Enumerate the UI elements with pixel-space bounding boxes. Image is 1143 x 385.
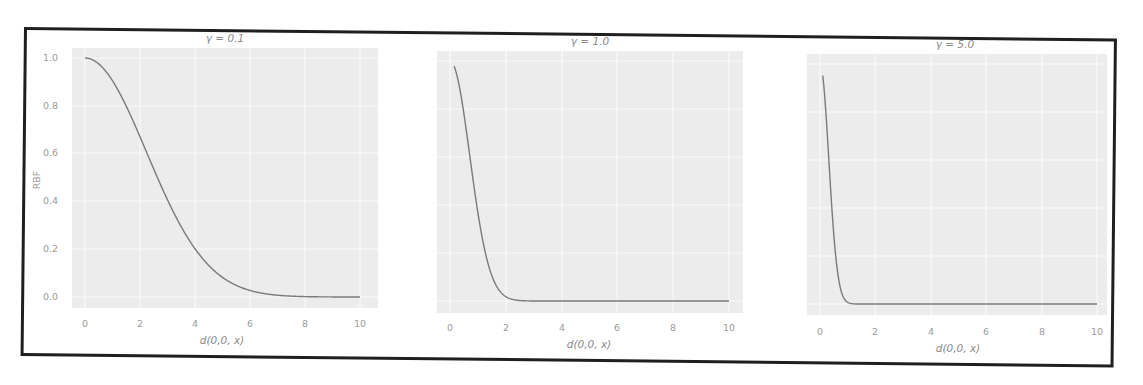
x-tick-labels: 0 2 4 6 8 10 xyxy=(82,318,366,329)
panel-gamma-0-1: γ = 0.1 1.0 0.8 0.6 0.4 0.2 0.0 RBF 0 2 … xyxy=(31,32,378,346)
x-tick: 2 xyxy=(872,326,878,337)
x-tick: 8 xyxy=(670,322,676,333)
panel-title: γ = 1.0 xyxy=(571,35,610,47)
x-tick-labels: 0 2 4 6 8 10 xyxy=(817,326,1103,337)
x-axis-label: d(0,0, x) xyxy=(200,334,244,346)
y-tick: 0.6 xyxy=(43,147,58,158)
x-tick: 4 xyxy=(559,322,565,333)
x-tick: 0 xyxy=(447,322,453,333)
x-tick-labels: 0 2 4 6 8 10 xyxy=(447,322,735,333)
y-tick: 1.0 xyxy=(43,52,58,63)
y-tick: 0.0 xyxy=(43,291,58,302)
y-tick-labels: 1.0 0.8 0.6 0.4 0.2 0.0 xyxy=(43,52,58,302)
panel-title: γ = 5.0 xyxy=(936,38,975,50)
x-tick: 8 xyxy=(1039,326,1045,337)
x-tick: 6 xyxy=(247,318,253,329)
x-tick: 2 xyxy=(503,322,509,333)
x-tick: 0 xyxy=(817,326,823,337)
x-axis-label: d(0,0, x) xyxy=(567,338,611,350)
x-axis-label: d(0,0, x) xyxy=(936,342,980,354)
x-tick: 6 xyxy=(614,322,620,333)
panel-gamma-1-0: γ = 1.0 0 2 4 6 8 10 d(0,0, x) xyxy=(437,35,743,350)
x-tick: 10 xyxy=(1091,326,1103,337)
panel-title: γ = 0.1 xyxy=(206,32,244,44)
y-tick: 0.8 xyxy=(43,100,58,111)
plot-area xyxy=(72,48,378,308)
x-tick: 0 xyxy=(82,318,88,329)
x-tick: 4 xyxy=(192,318,198,329)
y-axis-label: RBF xyxy=(31,171,42,190)
y-tick: 0.4 xyxy=(43,195,58,206)
x-tick: 10 xyxy=(723,322,735,333)
x-tick: 4 xyxy=(928,326,934,337)
plot-area xyxy=(807,54,1107,315)
plot-area xyxy=(437,51,743,313)
y-tick: 0.2 xyxy=(43,243,58,254)
x-tick: 10 xyxy=(354,318,366,329)
x-tick: 6 xyxy=(983,326,989,337)
x-tick: 2 xyxy=(137,318,143,329)
panel-gamma-5-0: γ = 5.0 0 2 4 6 8 10 d(0,0, x) xyxy=(807,38,1107,354)
rbf-figure: γ = 0.1 1.0 0.8 0.6 0.4 0.2 0.0 RBF 0 2 … xyxy=(0,0,1143,385)
x-tick: 8 xyxy=(302,318,308,329)
